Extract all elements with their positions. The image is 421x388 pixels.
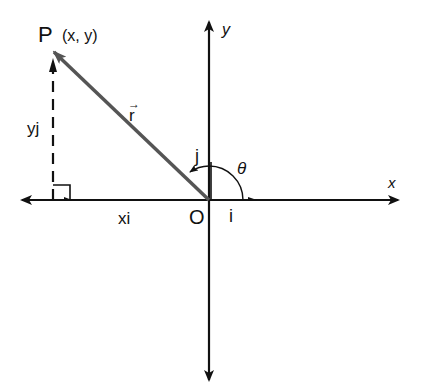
x-axis-label: x: [387, 174, 396, 191]
position-vector-r: [54, 52, 209, 200]
vector-arrow-icon: →: [128, 97, 140, 111]
point-label: P: [38, 22, 53, 47]
angle-theta-arc: [190, 166, 243, 200]
unit-j-label: j: [194, 146, 199, 166]
point-coords: (x, y): [62, 27, 98, 44]
y-axis-label: y: [221, 21, 231, 38]
y-component-label: yj: [27, 119, 39, 138]
right-angle-icon: [53, 185, 70, 200]
position-vector-diagram: P (x, y) r → yj xi O i j θ x y: [0, 0, 421, 388]
x-component-label: xi: [118, 209, 130, 228]
angle-theta-label: θ: [237, 159, 247, 178]
unit-i-label: i: [229, 206, 233, 226]
origin-label: O: [189, 206, 205, 228]
y-component-arrow-icon: [49, 58, 57, 72]
